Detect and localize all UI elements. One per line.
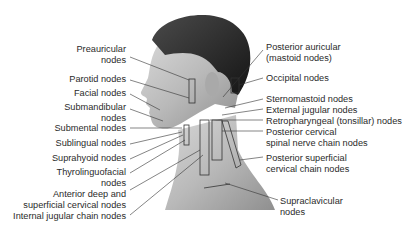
label-posterior-cervical-spinal-nerve-chain-nodes: Posterior cervicalspinal nerve chain nod… [266,127,368,148]
label-occipital-nodes: Occipital nodes [266,73,329,84]
label-submental-nodes: Submental nodes [54,123,126,134]
label-suprahyoid-nodes: Suprahyoid nodes [52,153,126,164]
ear-shape [205,72,219,96]
label-posterior-auricular-nodes: Posterior auricular(mastoid nodes) [266,42,341,63]
label-anterior-deep-superficial-cervical-nodes: Anterior deep andsuperficial cervical no… [23,189,126,210]
label-parotid-nodes: Parotid nodes [69,74,126,85]
label-internal-jugular-chain-nodes: Internal jugular chain nodes [13,211,126,222]
neck-shoulder-shape [165,115,275,210]
label-external-jugular-nodes: External jugular nodes [266,105,357,116]
label-thyrolinguofacial-nodes: Thyrolinguofacialnodes [57,167,126,188]
label-facial-nodes: Facial nodes [74,88,126,99]
label-posterior-superficial-cervical-chain-nodes: Posterior superficialcervical chain node… [266,153,349,174]
label-sternomastoid-nodes: Sternomastoid nodes [266,94,353,105]
label-sublingual-nodes: Sublingual nodes [56,138,127,149]
label-preauricular-nodes: Preauricularnodes [76,44,126,65]
label-supraclavicular-nodes: Supraclavicularnodes [280,196,343,217]
label-submandibular-nodes: Submandibularnodes [64,102,126,123]
label-retropharyngeal-nodes: Retropharyngeal (tonsillar) nodes [266,116,402,127]
